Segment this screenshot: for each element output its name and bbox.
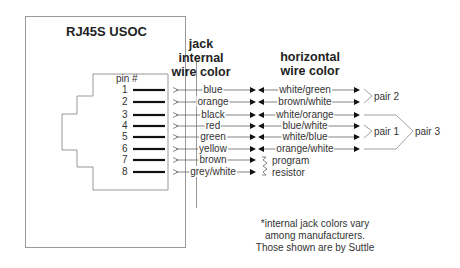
pin-number: 4	[122, 120, 128, 131]
horizontal-color-label: white/blue	[281, 131, 328, 142]
header-line: wire color	[265, 64, 355, 78]
pin-number: 3	[122, 109, 128, 120]
footnote-line: Those shown are by Suttle	[256, 242, 374, 254]
pin-contacts	[133, 90, 165, 172]
horizontal-color-label: white/green	[278, 84, 332, 95]
horizontal-color-label: orange/white	[275, 143, 334, 154]
pin-number: 7	[122, 154, 128, 165]
horizontal-arrowheads-right	[354, 87, 360, 152]
jack-color-label: green	[199, 131, 227, 142]
jack-color-label: blue	[203, 84, 224, 95]
pin-number: 2	[122, 96, 128, 107]
pin-number: 5	[122, 131, 128, 142]
header-line: horizontal	[265, 50, 355, 64]
jack-title: RJ45S USOC	[66, 24, 147, 39]
jack-color-label: yellow	[198, 143, 228, 154]
jack-color-label: brown	[198, 154, 227, 165]
jack-color-header: jack internal wire color	[161, 37, 241, 79]
pin-header: pin #	[116, 73, 138, 84]
jack-arrowheads	[250, 87, 256, 175]
resistor-label-line: program	[272, 155, 309, 167]
footnote-line: *internal jack colors vary	[256, 218, 374, 230]
horizontal-arrowheads-left	[258, 87, 264, 152]
jack-color-label: black	[200, 109, 225, 120]
program-resistor-label: program resistor	[272, 155, 309, 179]
pin-number: 6	[122, 143, 128, 154]
pair-3-label: pair 3	[415, 126, 440, 137]
pin-number: 1	[122, 84, 128, 95]
header-line: wire color	[161, 65, 241, 79]
jack-color-label: orange	[196, 96, 229, 107]
horizontal-color-label: blue/white	[281, 120, 328, 131]
pair-2-label: pair 2	[374, 91, 399, 102]
pair-1-label: pair 1	[374, 126, 399, 137]
resistor-label-line: resistor	[272, 167, 309, 179]
jack-color-label: red	[205, 120, 221, 131]
footnote-line: among manufacturers.	[256, 230, 374, 242]
jack-color-label: grey/white	[189, 166, 237, 177]
horizontal-color-header: horizontal wire color	[265, 50, 355, 78]
resistor-icon	[262, 157, 267, 175]
header-line: internal	[161, 51, 241, 65]
pin-number: 8	[122, 166, 128, 177]
horizontal-color-label: white/orange	[275, 109, 334, 120]
horizontal-color-label: brown/white	[277, 96, 332, 107]
manufacturer-footnote: *internal jack colors vary among manufac…	[256, 218, 374, 254]
header-line: jack	[161, 37, 241, 51]
